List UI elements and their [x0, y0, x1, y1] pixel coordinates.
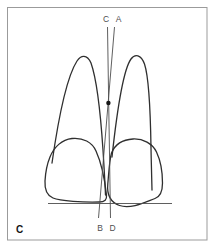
label-b-bottom: B: [97, 223, 103, 233]
label-d-bottom: D: [109, 223, 115, 233]
panel-label: C: [16, 224, 23, 235]
left-tooth-root-outline: [52, 56, 106, 195]
figure-border: [8, 8, 208, 241]
label-a-top: A: [116, 14, 122, 24]
dental-diagram-figure: C A B D C: [0, 0, 214, 246]
intersection-dot-icon: [106, 101, 110, 105]
right-tooth-crown-outline: [108, 139, 163, 207]
incisor-inclination-diagram: C A B D C: [0, 0, 214, 246]
right-tooth-root-outline: [112, 56, 152, 190]
label-c-top: C: [103, 14, 109, 24]
